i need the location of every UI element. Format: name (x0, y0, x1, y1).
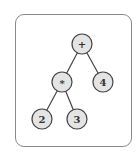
node-two-label: 2 (39, 114, 46, 125)
node-four-label: 4 (100, 77, 107, 88)
node-mul-label: * (59, 78, 65, 89)
expression-tree: + * 4 2 3 (0, 0, 139, 157)
node-root-label: + (78, 39, 86, 50)
node-three-label: 3 (74, 114, 81, 125)
